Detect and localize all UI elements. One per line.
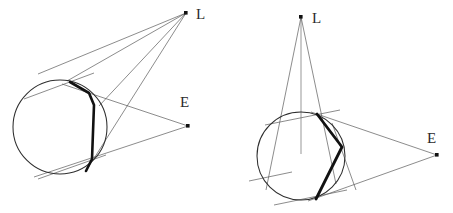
right-label-E: E — [427, 130, 436, 146]
figure-background — [0, 0, 453, 213]
left-point-L-marker — [184, 11, 188, 15]
right-point-L-marker — [299, 15, 303, 19]
geometry-figure-canvas: L E L E — [0, 0, 453, 213]
left-point-E-marker — [186, 124, 190, 128]
right-point-E-marker — [435, 153, 439, 157]
left-label-L: L — [196, 6, 205, 22]
right-label-L: L — [312, 10, 321, 26]
left-label-E: E — [180, 94, 189, 110]
